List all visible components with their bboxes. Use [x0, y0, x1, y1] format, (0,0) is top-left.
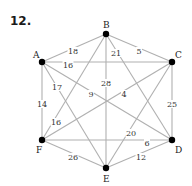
node-label-C: C: [175, 50, 182, 60]
node-F: [39, 137, 45, 143]
edge-weight-CD: 25: [167, 100, 177, 109]
node-A: [39, 59, 45, 65]
edges: [42, 34, 172, 168]
node-label-A: A: [32, 50, 40, 60]
edge-weight-BD: 21: [111, 49, 121, 58]
edge-weight-BF: 16: [51, 118, 61, 127]
edge-weight-ED: 12: [136, 153, 146, 162]
edge-weight-FC: 4: [121, 90, 126, 99]
edge-weight-FD: 6: [144, 139, 149, 148]
edge-weight-AD: 9: [88, 90, 93, 99]
edge-weight-BE: 28: [101, 79, 111, 88]
node-labels: ABCDEF: [32, 20, 182, 184]
edge-weight-AE: 17: [52, 83, 62, 92]
edge-weight-AB: 18: [68, 47, 78, 56]
edge-weight-AC: 16: [63, 61, 73, 70]
node-B: [103, 31, 109, 37]
node-label-F: F: [36, 145, 42, 155]
edge-weight-EC: 20: [126, 129, 136, 138]
edge-weight-labels: 18516142526126281621179420: [37, 47, 178, 162]
node-label-E: E: [103, 174, 110, 184]
edge-weight-BC: 5: [136, 47, 141, 56]
node-D: [169, 137, 175, 143]
node-label-B: B: [103, 20, 110, 30]
node-label-D: D: [175, 145, 182, 155]
edge-weight-FE: 26: [68, 153, 78, 162]
edge-weight-AF: 14: [37, 100, 47, 109]
weighted-graph: 18516142526126281621179420 ABCDEF: [0, 0, 192, 186]
node-E: [103, 165, 109, 171]
